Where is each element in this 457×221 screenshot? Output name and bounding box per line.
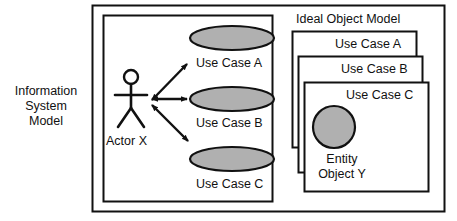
use-case-c-ellipse — [190, 147, 274, 171]
entity-object-circle-icon — [313, 106, 355, 148]
use-case-a-label: Use Case A — [196, 56, 262, 70]
ideal-object-model-label: Ideal Object Model — [296, 12, 400, 26]
entity-object-label: Entity Object Y — [306, 152, 378, 182]
use-case-b-ellipse — [190, 87, 274, 111]
use-case-card-b-label: Use Case B — [341, 62, 408, 76]
use-case-b-label: Use Case B — [196, 116, 263, 130]
information-system-model-label: Information System Model — [2, 84, 90, 129]
use-case-card-c-label: Use Case C — [346, 88, 413, 102]
use-case-a-ellipse — [190, 26, 274, 50]
use-case-c-label: Use Case C — [196, 177, 263, 191]
actor-label: Actor X — [106, 134, 147, 148]
use-case-card-a-label: Use Case A — [335, 37, 401, 51]
diagram-canvas: Information System Model Actor X Use Cas… — [0, 0, 457, 221]
